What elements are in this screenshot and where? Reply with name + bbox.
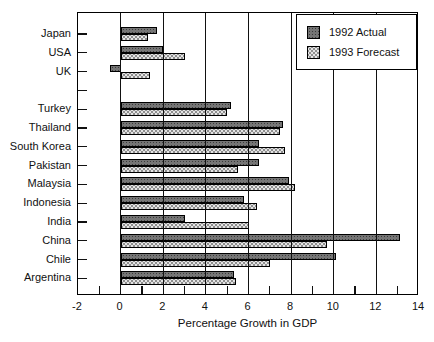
y-axis-tick: [78, 165, 87, 166]
category-label: Chile: [0, 252, 71, 266]
y-axis-tick: [78, 259, 87, 260]
legend-label-1992-actual: 1992 Actual: [329, 26, 387, 38]
category-label: Argentina: [0, 270, 71, 284]
y-axis-tick: [78, 71, 87, 72]
bar-argentina-1992-actual: [121, 271, 234, 278]
gridline: [120, 13, 121, 294]
x-axis-minor-tick: [227, 286, 228, 294]
legend-entry-1992-actual: 1992 Actual: [307, 26, 416, 39]
bar-japan-1993-forecast: [121, 34, 149, 41]
legend-label-1993-forecast: 1993 Forecast: [329, 46, 399, 58]
bar-chile-1992-actual: [121, 253, 336, 260]
x-axis-title: Percentage Growth in GDP: [77, 317, 418, 329]
y-axis-tick: [78, 278, 87, 279]
y-axis-tick: [78, 221, 87, 222]
bar-thailand-1993-forecast: [121, 128, 281, 135]
category-label: China: [0, 233, 71, 247]
y-axis-tick: [78, 52, 87, 53]
y-axis-tick: [78, 203, 87, 204]
bar-usa-1993-forecast: [121, 53, 185, 60]
x-axis-label: 2: [145, 300, 179, 312]
category-label: South Korea: [0, 139, 71, 153]
gridline: [291, 13, 292, 294]
x-axis-label: 12: [358, 300, 392, 312]
legend-entry-1993-forecast: 1993 Forecast: [307, 46, 416, 59]
x-axis-label: 8: [273, 300, 307, 312]
x-axis-label: 6: [231, 300, 265, 312]
bar-uk-1993-forecast: [121, 72, 151, 79]
bar-malaysia-1993-forecast: [121, 184, 296, 191]
x-axis-minor-tick: [397, 286, 398, 294]
legend-swatch-1993-forecast: [307, 46, 320, 59]
y-axis-tick: [78, 33, 87, 34]
bar-indonesia-1993-forecast: [121, 203, 257, 210]
category-label: Indonesia: [0, 195, 71, 209]
x-axis-minor-tick: [184, 286, 185, 294]
gridline: [248, 13, 249, 294]
category-label: UK: [0, 64, 71, 78]
bar-india-1993-forecast: [121, 222, 249, 229]
bar-india-1992-actual: [121, 215, 185, 222]
category-label: Turkey: [0, 101, 71, 115]
x-axis-label: 4: [188, 300, 222, 312]
category-label: Japan: [0, 26, 71, 40]
bar-indonesia-1992-actual: [121, 196, 245, 203]
bar-argentina-1993-forecast: [121, 278, 236, 285]
y-axis-tick: [78, 146, 87, 147]
x-axis-minor-tick: [312, 286, 313, 294]
bar-china-1993-forecast: [121, 241, 328, 248]
x-axis-minor-tick: [354, 286, 355, 294]
y-axis-tick: [78, 109, 87, 110]
gridline: [163, 13, 164, 294]
category-label: Malaysia: [0, 176, 71, 190]
bar-pakistan-1993-forecast: [121, 166, 238, 173]
gdp-growth-chart: Percentage Growth in GDP 1992 Actual 199…: [0, 0, 434, 342]
bar-south-korea-1993-forecast: [121, 147, 285, 154]
category-label: India: [0, 214, 71, 228]
bar-pakistan-1992-actual: [121, 159, 260, 166]
y-axis-tick: [78, 90, 87, 91]
bar-japan-1992-actual: [121, 27, 157, 34]
y-axis-tick: [78, 184, 87, 185]
bar-usa-1992-actual: [121, 46, 164, 53]
x-axis-minor-tick: [141, 286, 142, 294]
x-axis-label: 10: [316, 300, 350, 312]
legend: 1992 Actual 1993 Forecast: [296, 14, 417, 70]
x-axis-label: 0: [103, 300, 137, 312]
category-label: Thailand: [0, 120, 71, 134]
bar-south-korea-1992-actual: [121, 140, 260, 147]
legend-swatch-1992-actual: [307, 26, 320, 39]
bar-turkey-1993-forecast: [121, 109, 228, 116]
bar-turkey-1992-actual: [121, 102, 232, 109]
y-axis-tick: [78, 240, 87, 241]
x-axis-label: 14: [401, 300, 434, 312]
gridline: [205, 13, 206, 294]
y-axis-tick: [78, 127, 87, 128]
category-label: USA: [0, 45, 71, 59]
x-axis-label: -2: [60, 300, 94, 312]
bar-uk-1992-actual: [110, 65, 121, 72]
bar-thailand-1992-actual: [121, 121, 283, 128]
x-axis-minor-tick: [99, 286, 100, 294]
category-label: Pakistan: [0, 158, 71, 172]
x-axis-minor-tick: [269, 286, 270, 294]
